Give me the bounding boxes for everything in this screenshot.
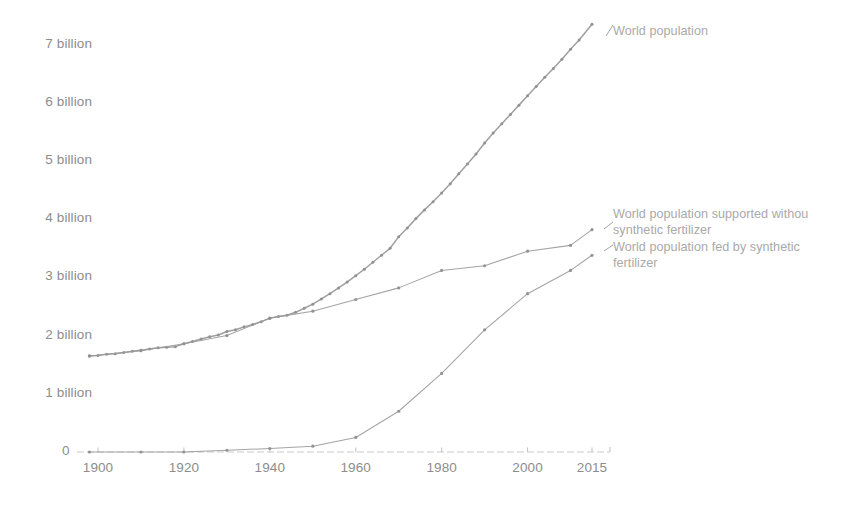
series-markers-1 <box>88 228 594 357</box>
data-point <box>526 94 529 97</box>
data-point <box>268 447 271 450</box>
series-label-2: World population fed by syntheticfertili… <box>613 240 800 271</box>
data-point <box>591 23 594 26</box>
data-point <box>590 254 593 257</box>
data-point <box>560 58 563 61</box>
data-point <box>311 303 314 306</box>
data-point <box>363 268 366 271</box>
data-point <box>139 450 142 453</box>
x-axis-tick-label: 1920 <box>154 460 214 475</box>
data-point <box>328 292 331 295</box>
series-line-1 <box>89 230 592 356</box>
data-point <box>509 113 512 116</box>
data-point <box>466 162 469 165</box>
data-point <box>517 104 520 107</box>
y-axis-tick-label: 3 billion <box>0 268 92 283</box>
series-label-line: World population supported withou <box>613 207 808 223</box>
data-point <box>311 310 314 313</box>
data-point <box>535 85 538 88</box>
series-label-line: fertilizer <box>613 256 800 272</box>
y-axis-tick-label: 4 billion <box>0 210 92 225</box>
data-point <box>423 208 426 211</box>
data-point <box>406 226 409 229</box>
data-point <box>440 372 443 375</box>
y-axis-tick-label: 2 billion <box>0 327 92 342</box>
leader-line-1 <box>604 222 613 229</box>
data-point <box>483 141 486 144</box>
leader-line-layer <box>604 25 613 251</box>
leader-line-2 <box>604 245 613 251</box>
data-point <box>414 217 417 220</box>
data-point <box>526 250 529 253</box>
data-point <box>483 328 486 331</box>
series-label-0: World population <box>613 24 708 40</box>
data-point <box>397 235 400 238</box>
x-axis-tick-label: 1900 <box>68 460 128 475</box>
data-point <box>139 349 142 352</box>
y-axis-tick-label: 5 billion <box>0 152 92 167</box>
chart-container: 7 billion6 billion5 billion4 billion3 bi… <box>0 0 849 513</box>
y-axis-tick-label: 0 <box>62 443 70 458</box>
data-point <box>225 334 228 337</box>
x-axis-tick-label: 1940 <box>240 460 300 475</box>
series-line-0 <box>89 24 592 356</box>
data-point <box>182 450 185 453</box>
data-point <box>217 334 220 337</box>
series-layer <box>88 23 594 454</box>
data-point <box>475 153 478 156</box>
data-point <box>88 354 91 357</box>
data-point <box>88 450 91 453</box>
data-point <box>225 449 228 452</box>
data-point <box>337 286 340 289</box>
data-point <box>354 298 357 301</box>
data-point <box>526 292 529 295</box>
series-label-line: World population fed by synthetic <box>613 240 800 256</box>
data-point <box>311 445 314 448</box>
data-point <box>234 328 237 331</box>
x-axis-tick-label: 2015 <box>562 460 622 475</box>
data-point <box>225 330 228 333</box>
data-point <box>492 132 495 135</box>
series-line-2 <box>89 255 592 452</box>
data-point <box>449 182 452 185</box>
y-axis-tick-label: 6 billion <box>0 94 92 109</box>
data-point <box>389 247 392 250</box>
data-point <box>432 200 435 203</box>
leader-line-0 <box>606 25 613 36</box>
data-point <box>552 67 555 70</box>
data-point <box>569 48 572 51</box>
data-point <box>346 281 349 284</box>
series-markers-0 <box>88 23 594 358</box>
series-markers-2 <box>88 254 594 454</box>
data-point <box>208 335 211 338</box>
data-point <box>354 436 357 439</box>
data-point <box>457 172 460 175</box>
data-point <box>320 297 323 300</box>
series-label-line: synthetic fertilizer <box>613 223 808 239</box>
data-point <box>440 269 443 272</box>
data-point <box>397 286 400 289</box>
data-point <box>543 76 546 79</box>
axis-layer <box>77 447 610 452</box>
data-point <box>500 122 503 125</box>
data-point <box>569 244 572 247</box>
data-point <box>268 317 271 320</box>
y-axis-tick-label: 1 billion <box>0 385 92 400</box>
x-axis-tick-label: 1980 <box>412 460 472 475</box>
data-point <box>380 254 383 257</box>
data-point <box>569 269 572 272</box>
data-point <box>371 261 374 264</box>
data-point <box>182 342 185 345</box>
data-point <box>303 307 306 310</box>
x-axis-tick-label: 2000 <box>498 460 558 475</box>
data-point <box>483 264 486 267</box>
series-label-1: World population supported withousynthet… <box>613 207 808 238</box>
data-point <box>397 410 400 413</box>
data-point <box>354 274 357 277</box>
series-label-line: World population <box>613 24 708 40</box>
y-axis-tick-label: 7 billion <box>0 36 92 51</box>
data-point <box>590 228 593 231</box>
data-point <box>578 38 581 41</box>
data-point <box>440 192 443 195</box>
x-axis-tick-label: 1960 <box>326 460 386 475</box>
